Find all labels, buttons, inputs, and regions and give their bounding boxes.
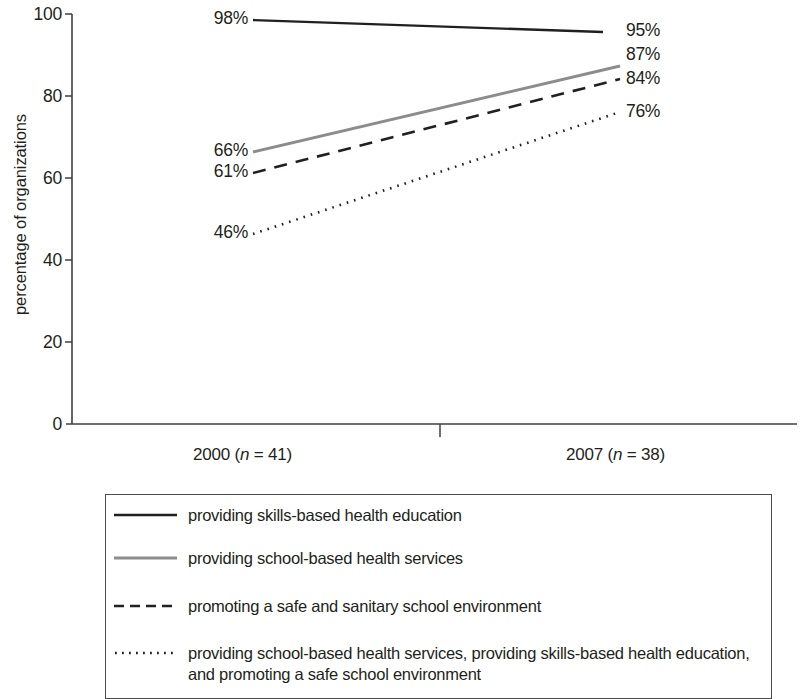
series-line-school-based-health-services <box>253 66 620 152</box>
series-line-safe-sanitary-school-environment <box>253 79 620 173</box>
x-tick-label-2007-year: 2007 <box>566 445 603 464</box>
x-tick-label-2007-n-value: = 38) <box>622 445 665 464</box>
value-label-right-84: 84% <box>626 68 660 89</box>
value-label-left-98: 98% <box>150 8 248 29</box>
value-label-left-61: 61% <box>150 161 248 182</box>
x-tick-label-2000-year: 2000 <box>193 445 230 464</box>
value-label-left-46: 46% <box>150 222 248 243</box>
value-label-right-76: 76% <box>626 101 660 122</box>
legend-item-safe-sanitary-school-environment: promoting a safe and sanitary school env… <box>106 596 771 617</box>
legend-item-all-three-combined: providing school-based health services, … <box>106 643 771 685</box>
series-line-all-three-combined <box>253 112 620 234</box>
legend-label-0: providing skills-based health education <box>188 505 462 526</box>
x-tick-label-2000-n-value: = 41) <box>249 445 292 464</box>
legend-label-2: promoting a safe and sanitary school env… <box>188 596 541 617</box>
legend-swatch-grey-line-icon <box>114 548 177 566</box>
series-line-skills-based-health-education <box>253 20 603 32</box>
legend-swatch-solid-line-icon <box>114 505 177 523</box>
value-label-right-87: 87% <box>626 44 660 65</box>
value-label-left-66: 66% <box>150 140 248 161</box>
legend-label-3: providing school-based health services, … <box>188 643 763 685</box>
plot-area <box>0 0 800 480</box>
legend-swatch-dashed-line-icon <box>114 596 177 614</box>
legend: providing skills-based health education … <box>105 494 772 699</box>
legend-item-skills-based-health-education: providing skills-based health education <box>106 505 771 526</box>
x-tick-label-2007-n: n <box>613 445 622 464</box>
legend-label-1: providing school-based health services <box>188 548 463 569</box>
legend-swatch-dotted-line-icon <box>114 643 177 661</box>
value-label-right-95: 95% <box>626 20 660 41</box>
legend-item-school-based-health-services: providing school-based health services <box>106 548 771 569</box>
x-tick-label-2000-n: n <box>240 445 249 464</box>
x-tick-label-2000: 2000 (n = 41) <box>193 445 292 465</box>
x-tick-label-2007: 2007 (n = 38) <box>566 445 665 465</box>
